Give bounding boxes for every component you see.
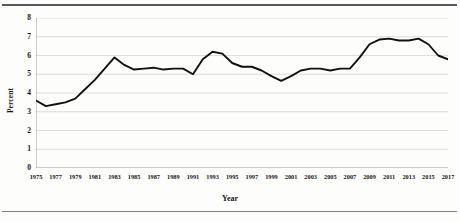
x-tick-label: 2017 [437, 173, 459, 180]
bottom-horizontal-rule [2, 211, 457, 212]
gridlines [36, 18, 448, 168]
y-tick-label: 6 [11, 52, 31, 60]
y-tick-label: 1 [11, 145, 31, 153]
y-tick-label: 2 [11, 127, 31, 135]
y-tick-label: 4 [11, 89, 31, 97]
y-axis-title: Percent [6, 78, 15, 124]
figure-page: Percent Year 012345678 19751977197919811… [0, 0, 460, 222]
y-tick-label: 0 [11, 164, 31, 172]
y-tick-label: 5 [11, 70, 31, 78]
data-series-line [36, 39, 448, 107]
x-axis-title: Year [0, 194, 460, 203]
chart-svg [36, 18, 448, 168]
plot-area [36, 18, 448, 168]
line-chart-figure: Percent Year 012345678 19751977197919811… [0, 8, 460, 208]
y-tick-label: 3 [11, 108, 31, 116]
top-horizontal-rule [2, 4, 457, 6]
y-tick-label: 8 [11, 14, 31, 22]
y-tick-label: 7 [11, 33, 31, 41]
